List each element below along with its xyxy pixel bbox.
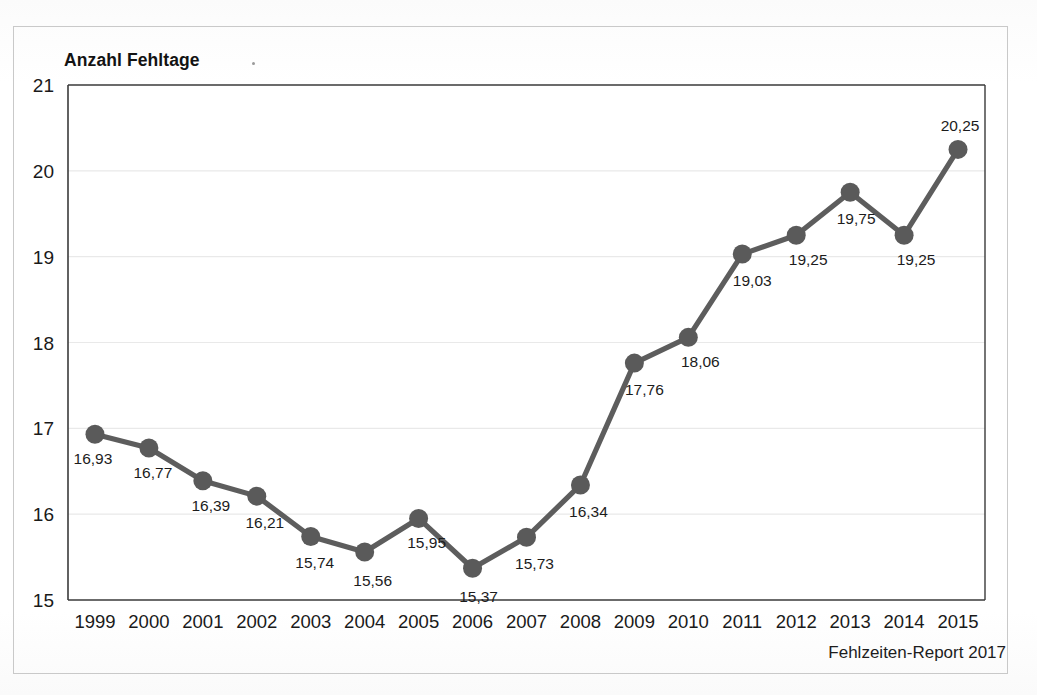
- y-tick-label: 21: [33, 75, 54, 96]
- x-tick-label: 2008: [560, 611, 601, 632]
- data-point-marker: [301, 527, 320, 546]
- data-value-label: 17,76: [625, 381, 664, 398]
- data-value-label: 16,39: [191, 497, 230, 514]
- data-value-label: 15,56: [353, 572, 392, 589]
- x-tick-label: 2014: [884, 611, 925, 632]
- data-value-label: 16,34: [569, 503, 608, 520]
- x-tick-label: 2011: [722, 611, 762, 632]
- x-tick-label: 2000: [128, 611, 169, 632]
- data-point-marker: [193, 471, 212, 490]
- x-tick-label: 1999: [74, 611, 115, 632]
- data-value-label: 19,25: [897, 251, 936, 268]
- y-tick-label: 16: [33, 504, 54, 525]
- data-value-label: 16,77: [134, 464, 173, 481]
- data-value-label: 15,95: [407, 534, 446, 551]
- data-value-label: 18,06: [681, 353, 720, 370]
- x-axis-tick-labels: 1999200020012002200320042005200620072008…: [74, 611, 978, 632]
- data-point-marker: [841, 183, 860, 202]
- data-value-label: 15,37: [459, 588, 498, 605]
- chart-figure: Anzahl Fehltage 15161718192021 199920002…: [0, 0, 1037, 695]
- data-value-label: 16,93: [74, 450, 113, 467]
- x-tick-label: 2004: [344, 611, 385, 632]
- data-point-marker: [895, 226, 914, 245]
- y-tick-label: 15: [33, 590, 54, 611]
- data-value-label: 19,75: [837, 210, 876, 227]
- x-tick-label: 2001: [182, 611, 223, 632]
- data-value-label: 20,25: [941, 117, 980, 134]
- data-point-marker: [571, 475, 590, 494]
- y-tick-label: 17: [33, 418, 54, 439]
- data-value-label: 15,73: [515, 555, 554, 572]
- data-point-marker: [733, 245, 752, 264]
- y-tick-label: 20: [33, 161, 54, 182]
- data-value-label: 19,03: [733, 272, 772, 289]
- x-tick-label: 2012: [776, 611, 817, 632]
- data-point-marker: [355, 542, 374, 561]
- data-value-label: 16,21: [245, 514, 284, 531]
- data-point-marker: [247, 487, 266, 506]
- x-tick-label: 2010: [668, 611, 709, 632]
- x-tick-label: 2007: [506, 611, 547, 632]
- data-point-marker: [787, 226, 806, 245]
- data-point-marker: [463, 559, 482, 578]
- data-point-marker: [517, 528, 536, 547]
- y-tick-label: 18: [33, 333, 54, 354]
- data-point-marker: [85, 425, 104, 444]
- x-tick-label: 2013: [830, 611, 871, 632]
- line-chart-plot: 15161718192021 1999200020012002200320042…: [0, 0, 1037, 695]
- source-note: Fehlzeiten-Report 2017: [828, 643, 1006, 663]
- x-tick-label: 2006: [452, 611, 493, 632]
- y-axis-tick-labels: 15161718192021: [33, 75, 54, 611]
- x-tick-label: 2005: [398, 611, 439, 632]
- data-value-label: 15,74: [295, 554, 334, 571]
- data-point-marker: [679, 328, 698, 347]
- x-tick-label: 2002: [236, 611, 277, 632]
- data-point-marker: [409, 509, 428, 528]
- data-point-marker: [139, 439, 158, 458]
- x-tick-label: 2015: [937, 611, 978, 632]
- x-tick-label: 2009: [614, 611, 655, 632]
- x-tick-label: 2003: [290, 611, 331, 632]
- data-value-label: 19,25: [789, 251, 828, 268]
- data-point-marker: [625, 354, 644, 373]
- y-tick-label: 19: [33, 247, 54, 268]
- data-point-marker: [949, 140, 968, 159]
